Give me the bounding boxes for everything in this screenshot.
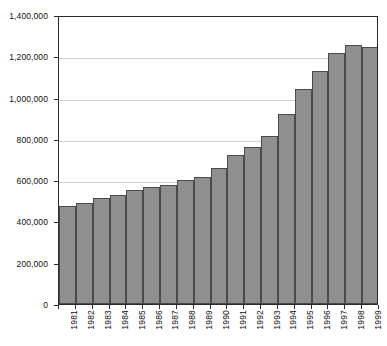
bar[interactable]: [126, 190, 143, 304]
x-tick-label: 1984: [121, 310, 130, 330]
y-tick-label: 200,000: [17, 259, 48, 268]
bar[interactable]: [59, 206, 76, 304]
y-tick-mark: [54, 140, 58, 141]
y-tick-label: 400,000: [17, 218, 48, 227]
y-tick-label: 1,400,000: [9, 12, 48, 21]
bar[interactable]: [278, 114, 295, 304]
bar[interactable]: [211, 168, 228, 304]
x-tick-label: 1991: [239, 310, 248, 330]
x-tick-label: 1999: [374, 310, 383, 330]
x-tick-label: 1988: [188, 310, 197, 330]
x-tick-label: 1982: [87, 310, 96, 330]
x-tick-label: 1998: [357, 310, 366, 330]
bar[interactable]: [312, 71, 329, 304]
y-tick-label: 1,000,000: [9, 94, 48, 103]
y-tick-mark: [54, 181, 58, 182]
x-tick-label: 1994: [289, 310, 298, 330]
x-tick-label: 1989: [205, 310, 214, 330]
x-tick-label: 1992: [256, 310, 265, 330]
x-tick-label: 1995: [306, 310, 315, 330]
x-tick-label: 1981: [70, 310, 79, 330]
y-tick-mark: [54, 264, 58, 265]
y-tick-label: 1,200,000: [9, 53, 48, 62]
bar[interactable]: [143, 187, 160, 304]
y-tick-label: 800,000: [17, 135, 48, 144]
bar[interactable]: [362, 47, 378, 304]
x-tick-label: 1996: [323, 310, 332, 330]
bar[interactable]: [345, 45, 362, 304]
bar[interactable]: [160, 185, 177, 304]
y-tick-label: 0: [43, 301, 48, 310]
bar[interactable]: [93, 198, 110, 304]
bar-chart: 0200,000400,000600,000800,0001,000,0001,…: [0, 0, 387, 346]
x-tick-label: 1987: [171, 310, 180, 330]
y-tick-mark: [54, 222, 58, 223]
x-tick-label: 1993: [273, 310, 282, 330]
bar[interactable]: [244, 147, 261, 304]
y-tick-mark: [54, 99, 58, 100]
plot-area: [58, 16, 378, 305]
bar[interactable]: [227, 155, 244, 304]
bar[interactable]: [76, 203, 93, 304]
x-tick-label: 1985: [138, 310, 147, 330]
x-tick-label: 1990: [222, 310, 231, 330]
bar[interactable]: [194, 177, 211, 304]
x-axis: 1981198219831984198519861987198819891990…: [58, 306, 378, 346]
bar[interactable]: [295, 89, 312, 304]
y-axis: 0200,000400,000600,000800,0001,000,0001,…: [0, 0, 54, 346]
y-tick-mark: [54, 57, 58, 58]
x-tick-mark: [378, 305, 379, 309]
x-tick-label: 1986: [155, 310, 164, 330]
bar[interactable]: [328, 53, 345, 304]
x-tick-label: 1983: [104, 310, 113, 330]
y-tick-label: 600,000: [17, 177, 48, 186]
bars-layer: [59, 17, 377, 304]
bar[interactable]: [177, 180, 194, 304]
x-tick-label: 1997: [340, 310, 349, 330]
bar[interactable]: [261, 136, 278, 304]
bar[interactable]: [110, 195, 127, 304]
y-tick-mark: [54, 16, 58, 17]
